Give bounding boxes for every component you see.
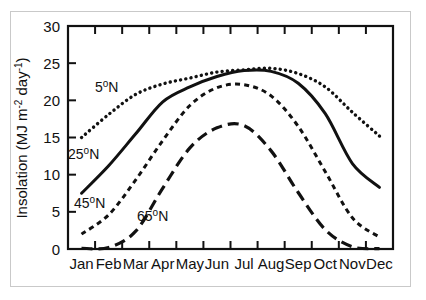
y-axis-title: Insolation (MJ m-2 day-1) — [13, 57, 31, 218]
insolation-line-chart: 051015202530 JanFebMarAprMayJunJulAugSep… — [0, 0, 426, 300]
x-tick-label: Oct — [314, 255, 338, 272]
y-tick-label: 10 — [43, 166, 60, 183]
y-axis-title-text: Insolation (MJ m-2 day-1) — [13, 57, 31, 218]
x-axis-ticks — [95, 26, 366, 249]
series-line — [82, 70, 380, 193]
y-tick-label: 25 — [43, 55, 60, 72]
plot-axes — [68, 26, 393, 249]
x-tick-label: Jun — [205, 255, 229, 272]
y-tick-label: 30 — [43, 18, 60, 35]
series-annotation-label: 45oN — [74, 194, 105, 212]
y-axis-tick-labels: 051015202530 — [43, 18, 60, 258]
x-tick-label: Jan — [69, 255, 93, 272]
series-annotation-label: 5oN — [95, 78, 118, 96]
figure-container: 051015202530 JanFebMarAprMayJunJulAugSep… — [0, 0, 426, 300]
series-line — [82, 84, 380, 237]
y-tick-label: 15 — [43, 129, 60, 146]
x-tick-label: May — [176, 255, 205, 272]
x-tick-label: Aug — [258, 255, 285, 272]
series-line — [82, 68, 380, 137]
y-tick-label: 5 — [52, 203, 60, 220]
x-tick-label: Jul — [234, 255, 253, 272]
x-tick-label: Apr — [151, 255, 174, 272]
y-tick-label: 20 — [43, 92, 60, 109]
y-axis-ticks — [68, 26, 76, 249]
x-tick-label: Sep — [285, 255, 312, 272]
y-tick-label: 0 — [52, 241, 60, 258]
plot-area-border — [68, 26, 393, 249]
data-series-group — [82, 68, 380, 249]
x-tick-label: Nov — [339, 255, 366, 272]
x-axis-tick-labels: JanFebMarAprMayJunJulAugSepOctNovDec — [69, 255, 393, 272]
x-tick-label: Dec — [366, 255, 393, 272]
series-annotation-label: 25oN — [68, 145, 99, 163]
x-tick-label: Feb — [96, 255, 122, 272]
x-tick-label: Mar — [123, 255, 149, 272]
series-annotation-label: 65oN — [137, 207, 168, 225]
